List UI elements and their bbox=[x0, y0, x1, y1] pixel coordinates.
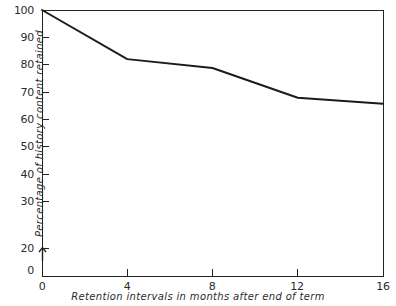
y-axis-caption: Percentage of history content retained bbox=[34, 9, 45, 259]
plot-area bbox=[0, 0, 396, 306]
data-series-line bbox=[42, 10, 383, 104]
x-axis-caption: Retention intervals in months after end … bbox=[0, 291, 396, 302]
line-chart-figure: 100 90 80 70 60 50 40 30 20 0 0 4 8 12 1… bbox=[0, 0, 396, 306]
